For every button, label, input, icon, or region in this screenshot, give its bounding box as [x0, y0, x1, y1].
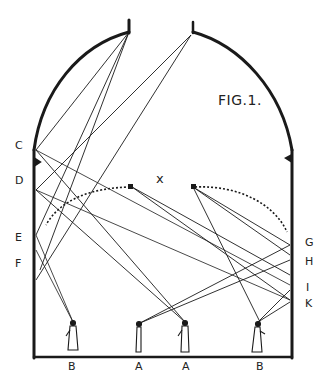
- person-a-left: [136, 322, 142, 353]
- person-b-right: [252, 322, 265, 353]
- person-a-right: [178, 321, 189, 353]
- right-speaking-tube: [191, 184, 196, 189]
- label-d: D: [15, 175, 23, 186]
- label-k: K: [305, 298, 312, 309]
- floor-label-a-right: A: [182, 361, 190, 372]
- dashed-arcs: [46, 187, 287, 232]
- label-e: E: [15, 232, 22, 243]
- floor-label-a-left: A: [135, 361, 143, 372]
- building-outline: [34, 20, 292, 358]
- center-x-mark: x: [156, 172, 164, 185]
- label-c: C: [15, 140, 23, 151]
- left-speaking-tube: [128, 184, 133, 189]
- label-f: F: [15, 258, 21, 269]
- label-g: G: [305, 237, 314, 248]
- figure-title: FIG.1.: [218, 92, 262, 108]
- floor-label-b-left: B: [68, 361, 76, 372]
- floor-label-b-right: B: [256, 361, 264, 372]
- top-rays: [36, 32, 191, 322]
- label-i: I: [306, 282, 309, 293]
- person-b-left: [66, 321, 78, 351]
- label-h: H: [305, 256, 313, 267]
- whispering-gallery-diagram: [0, 0, 325, 376]
- center-rays: [132, 187, 290, 323]
- person-figures: [66, 321, 265, 353]
